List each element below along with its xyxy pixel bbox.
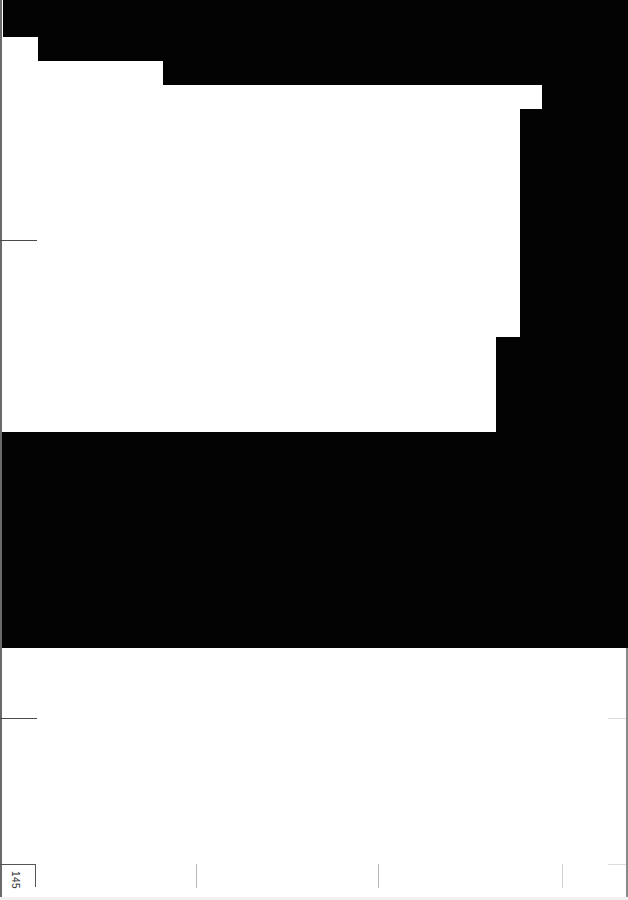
bottom-tick-1 — [196, 864, 197, 888]
scanned-page: 145 — [0, 0, 628, 900]
page-number: 145 — [10, 871, 21, 889]
black-region-middle-band — [0, 432, 628, 648]
black-region-top-2 — [38, 37, 628, 61]
bottom-tick-2 — [378, 864, 379, 888]
bottom-tick-3 — [562, 864, 563, 888]
black-region-top-1 — [3, 0, 628, 37]
black-region-right-1 — [542, 85, 628, 109]
black-region-right-2 — [520, 109, 628, 337]
page-left-edge — [0, 0, 2, 900]
black-region-right-3 — [496, 337, 628, 432]
crop-mark-right-lower — [608, 718, 626, 719]
crop-mark-left-upper — [0, 240, 37, 241]
black-region-top-3 — [163, 61, 628, 85]
crop-mark-right-bottom — [608, 864, 626, 865]
crop-mark-left-lower — [0, 718, 37, 719]
